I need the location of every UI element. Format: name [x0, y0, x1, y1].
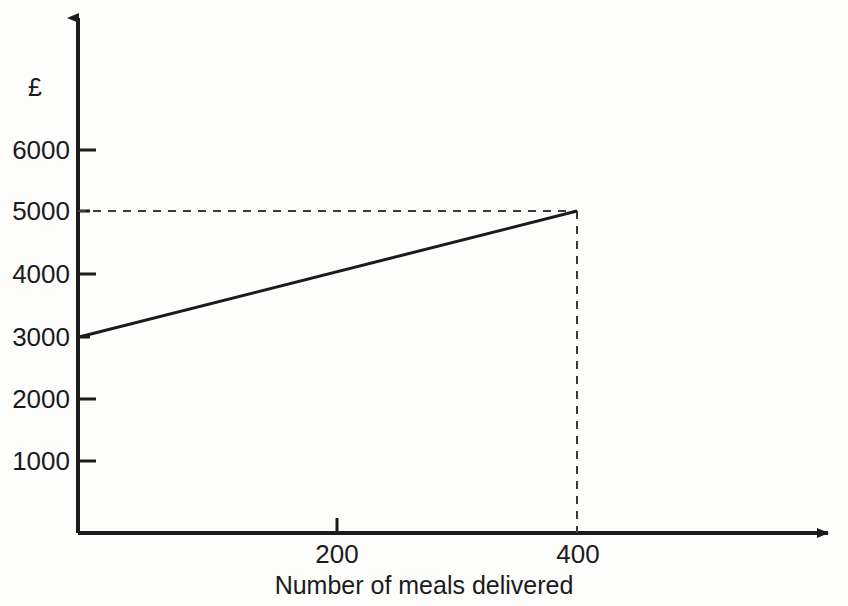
- y-tick-label-5000: 5000: [0, 198, 70, 224]
- y-axis-label: £: [28, 74, 42, 100]
- y-tick-label-1000: 1000: [0, 448, 70, 474]
- y-tick-label-6000: 6000: [0, 137, 70, 163]
- chart-plot-area: [0, 0, 848, 606]
- y-tick-label-4000: 4000: [0, 261, 70, 287]
- x-tick-label-200: 200: [277, 541, 397, 567]
- cost-line-series: [79, 211, 577, 337]
- y-tick-label-3000: 3000: [0, 324, 70, 350]
- x-tick-label-400: 400: [518, 541, 638, 567]
- x-axis-title: Number of meals delivered: [0, 570, 848, 600]
- y-tick-label-2000: 2000: [0, 386, 70, 412]
- line-chart: £ 6000 5000 4000 3000 2000 1000 200 400 …: [0, 0, 848, 606]
